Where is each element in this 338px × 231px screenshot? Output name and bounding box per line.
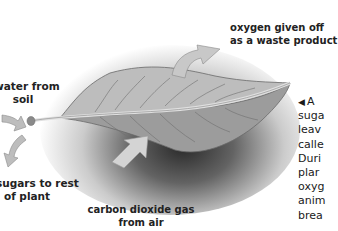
water-label-line1: water from: [0, 80, 52, 93]
oxygen-label-line2: as a waste product: [230, 34, 324, 47]
sugars-label: sugars to rest of plant: [0, 177, 58, 203]
caption-pointer-icon: ◀: [298, 97, 305, 107]
caption-line-7: anim: [298, 194, 338, 208]
oxygen-label-line1: oxygen given off: [230, 21, 324, 34]
co2-label: carbon dioxide gas from air: [82, 203, 200, 229]
sugars-arrow-icon: [4, 135, 26, 167]
caption-line-0-text: A: [307, 95, 315, 108]
oxygen-label: oxygen given off as a waste product: [230, 21, 324, 47]
caption-text: ◀A suga leav calle Duri plar oxyg anim b…: [298, 95, 338, 223]
caption-line-0: ◀A: [298, 95, 338, 109]
caption-line-6: oxyg: [298, 180, 338, 194]
caption-line-5: plar: [298, 166, 338, 180]
sugars-label-line1: sugars to rest: [0, 177, 58, 190]
water-label: water from soil: [0, 80, 52, 106]
caption-line-2: leav: [298, 123, 338, 137]
co2-label-line2: from air: [82, 216, 200, 229]
co2-label-line1: carbon dioxide gas: [82, 203, 200, 216]
caption-line-8: brea: [298, 209, 338, 223]
caption-line-3: calle: [298, 138, 338, 152]
caption-line-1: suga: [298, 109, 338, 123]
sugars-label-line2: of plant: [0, 190, 58, 203]
stem-end: [27, 117, 35, 126]
water-label-line2: soil: [0, 93, 52, 106]
caption-line-4: Duri: [298, 152, 338, 166]
water-arrow-icon: [2, 115, 26, 131]
co2-arrow-icon: [112, 136, 148, 168]
